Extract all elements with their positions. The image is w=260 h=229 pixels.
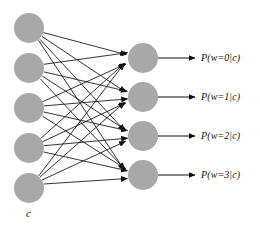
edge-in1-out1: [44, 33, 127, 55]
output-node-2[interactable]: [128, 82, 158, 112]
output-label-2: P(w=2|c): [201, 131, 240, 141]
edge-in2-out4: [40, 79, 124, 169]
input-node-5[interactable]: [14, 173, 44, 203]
output-node-4[interactable]: [128, 160, 158, 190]
network-diagram-figure: P(w=0|c) P(w=1|c) P(w=2|c) P(w=3|c) c: [0, 0, 260, 229]
edge-group: [39, 33, 128, 184]
edge-in4-out3: [44, 138, 128, 146]
output-node-3[interactable]: [128, 121, 158, 151]
edge-in5-out4: [44, 179, 128, 185]
output-label-0: P(w=0|c): [201, 53, 240, 63]
input-node-3[interactable]: [14, 93, 44, 123]
edge-in1-out3: [40, 39, 125, 130]
input-node-4[interactable]: [14, 133, 44, 163]
output-arrow-group: [158, 58, 195, 175]
edge-in3-out2: [44, 99, 128, 106]
output-label-3: P(w=3|c): [201, 170, 240, 180]
edge-in2-out1: [44, 53, 128, 65]
output-label-1: P(w=1|c): [201, 92, 240, 102]
input-node-1[interactable]: [14, 13, 44, 43]
output-node-group: [128, 43, 158, 190]
input-node-2[interactable]: [14, 53, 44, 83]
network-graphics: [0, 0, 260, 229]
edge-in4-out4: [44, 152, 128, 171]
input-layer-label: c: [26, 208, 31, 219]
output-node-1[interactable]: [128, 43, 158, 73]
edge-in3-out1: [42, 64, 126, 102]
